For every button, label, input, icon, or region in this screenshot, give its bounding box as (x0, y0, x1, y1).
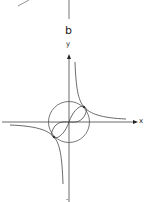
bottom-label: - (66, 196, 68, 202)
tangent-point-upper (83, 106, 85, 108)
partial-line (18, 0, 29, 6)
y-axis-arrow-icon (67, 54, 71, 59)
y-axis-label: y (66, 41, 70, 48)
hyperbola-lower-left (10, 125, 63, 184)
x-axis-arrow-icon (133, 120, 138, 124)
tangent-point-lower (53, 136, 55, 138)
x-axis-label: x (139, 118, 143, 125)
panel-label: b (65, 25, 72, 36)
hyperbola-upper-right (75, 62, 126, 119)
diagram-canvas (0, 0, 144, 202)
